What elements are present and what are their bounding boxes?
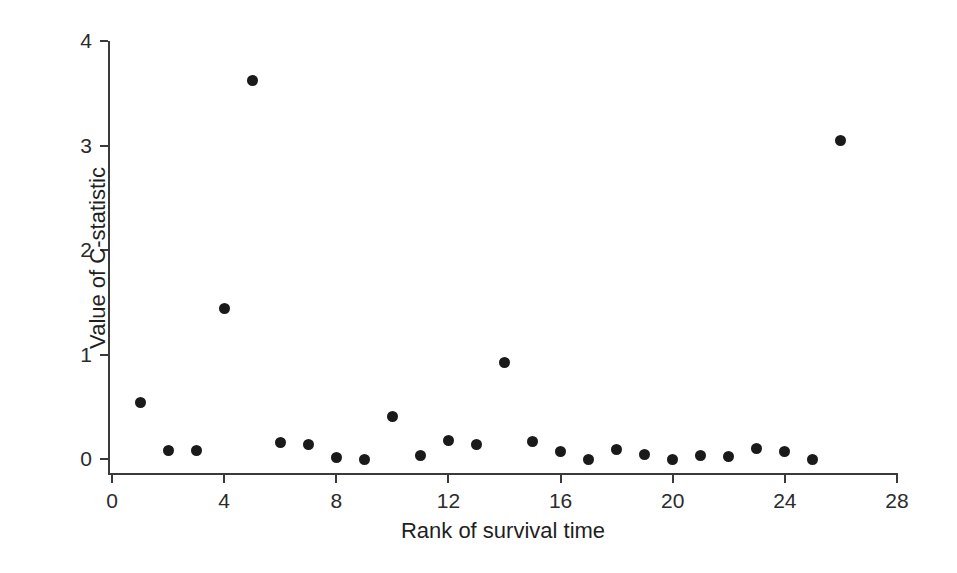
data-point bbox=[303, 439, 314, 450]
data-point bbox=[275, 437, 286, 448]
data-point bbox=[191, 445, 202, 456]
data-point bbox=[135, 397, 146, 408]
data-point bbox=[443, 435, 454, 446]
data-point bbox=[527, 436, 538, 447]
scatter-plot-figure: 01234 0481216202428 Value of C-statistic… bbox=[0, 0, 957, 573]
data-point bbox=[695, 450, 706, 461]
data-point bbox=[247, 75, 258, 86]
data-point bbox=[555, 446, 566, 457]
data-point bbox=[331, 452, 342, 463]
data-point bbox=[359, 454, 370, 465]
data-point bbox=[611, 444, 622, 455]
data-point bbox=[471, 439, 482, 450]
data-point bbox=[415, 450, 426, 461]
data-point bbox=[807, 454, 818, 465]
data-point bbox=[219, 303, 230, 314]
data-point bbox=[723, 451, 734, 462]
plot-area bbox=[0, 0, 957, 573]
data-point bbox=[499, 357, 510, 368]
data-point bbox=[835, 135, 846, 146]
data-point bbox=[751, 443, 762, 454]
data-point bbox=[779, 446, 790, 457]
data-point bbox=[667, 454, 678, 465]
data-point bbox=[163, 445, 174, 456]
data-point bbox=[583, 454, 594, 465]
data-point bbox=[639, 449, 650, 460]
data-point bbox=[387, 411, 398, 422]
